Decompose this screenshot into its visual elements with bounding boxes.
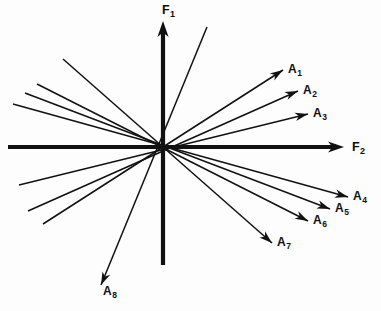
vector-label-a4-sub: 4 xyxy=(362,195,367,205)
vector-label-a5-sub: 5 xyxy=(344,207,349,217)
vector-label-a5: A5 xyxy=(335,202,349,214)
vector-label-a6-main: A xyxy=(313,213,322,227)
vector-label-a1-main: A xyxy=(288,62,297,76)
vector-label-a2: A2 xyxy=(303,84,317,96)
axis-label-f1-sub: 1 xyxy=(170,9,175,19)
vector-label-a3: A3 xyxy=(313,107,327,119)
axis-label-f2: F2 xyxy=(352,141,365,154)
vector-a7 xyxy=(63,59,272,243)
vector-label-a7-sub: 7 xyxy=(286,241,291,251)
vector-plot-canvas xyxy=(0,0,381,311)
vector-arrowhead-a6 xyxy=(295,211,308,221)
vector-label-a4-main: A xyxy=(353,189,362,203)
axis-label-f2-main: F xyxy=(352,140,360,154)
axis-label-f1: F1 xyxy=(162,4,175,17)
vector-label-a6-sub: 6 xyxy=(322,219,327,229)
vector-label-a8-sub: 8 xyxy=(112,290,117,300)
vector-label-a2-sub: 2 xyxy=(312,89,317,99)
vector-arrowhead-a1 xyxy=(270,70,283,81)
vector-label-a7-main: A xyxy=(277,235,286,249)
vector-label-a3-sub: 3 xyxy=(322,112,327,122)
vector-label-a1: A1 xyxy=(288,63,302,75)
vector-a4 xyxy=(13,104,348,198)
axis-label-f1-main: F xyxy=(162,3,170,17)
vector-label-a4: A4 xyxy=(353,190,367,202)
vector-label-a3-main: A xyxy=(313,106,322,120)
vector-label-a6: A6 xyxy=(313,214,327,226)
vector-line-a4 xyxy=(13,104,348,197)
vector-label-a7: A7 xyxy=(277,236,291,248)
vector-label-a8: A8 xyxy=(103,285,117,297)
factor-loading-diagram: F1 F2 A1 A2 A3 A4 A5 A6 A7 A8 xyxy=(0,0,381,311)
vector-label-a2-main: A xyxy=(303,83,312,97)
vector-label-a5-main: A xyxy=(335,201,344,215)
vector-label-a1-sub: 1 xyxy=(297,68,302,78)
vector-line-a7 xyxy=(63,59,272,243)
axis-label-f2-sub: 2 xyxy=(360,146,365,156)
vector-label-a8-main: A xyxy=(103,284,112,298)
